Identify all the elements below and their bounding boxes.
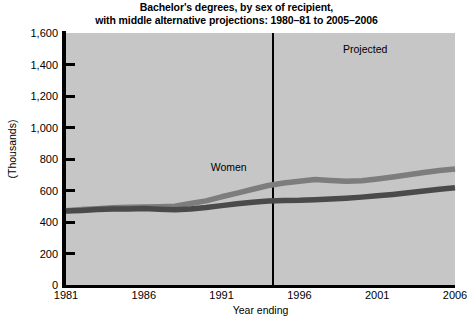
series-line-men xyxy=(66,188,455,211)
chart-figure: Bachelor's degrees, by sex of recipient,… xyxy=(0,0,473,322)
series-lines xyxy=(0,0,473,322)
series-line-women xyxy=(66,169,455,211)
